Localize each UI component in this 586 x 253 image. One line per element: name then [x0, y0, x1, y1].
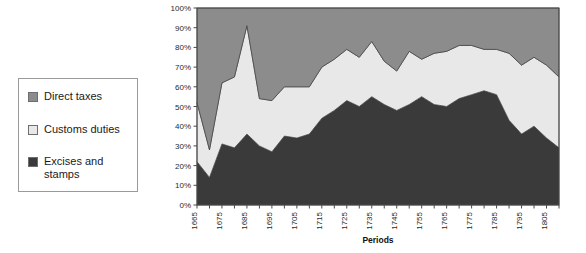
legend-label-customs-duties: Customs duties	[44, 123, 120, 136]
y-tick-label: 100%	[171, 4, 191, 13]
legend-swatch-excises-and-stamps	[28, 157, 38, 167]
y-tick-label: 0%	[179, 201, 191, 210]
legend-swatch-customs-duties	[28, 125, 38, 135]
x-tick-label: 1805	[540, 211, 549, 229]
y-tick-label: 90%	[175, 24, 191, 33]
x-axis: 1665167516851695170517151725173517451755…	[190, 205, 559, 230]
legend-item-excises-and-stamps: Excises and stamps	[28, 155, 103, 181]
x-tick-label: 1695	[265, 211, 274, 229]
x-tick-label: 1785	[490, 211, 499, 229]
x-tick-label: 1715	[315, 211, 324, 229]
x-tick-label: 1745	[390, 211, 399, 229]
chart-legend: Direct taxes Customs duties Excises and …	[18, 78, 138, 192]
legend-swatch-direct-taxes	[28, 92, 38, 102]
x-tick-label: 1685	[240, 211, 249, 229]
y-tick-label: 20%	[175, 162, 191, 171]
legend-item-direct-taxes: Direct taxes	[28, 90, 102, 103]
legend-item-customs-duties: Customs duties	[28, 123, 120, 136]
x-tick-label: 1675	[215, 211, 224, 229]
chart-svg: 0%10%20%30%40%50%60%70%80%90%100% 166516…	[160, 0, 586, 253]
legend-label-direct-taxes: Direct taxes	[44, 90, 102, 103]
x-tick-label: 1765	[440, 211, 449, 229]
x-tick-label: 1725	[340, 211, 349, 229]
y-tick-label: 50%	[175, 103, 191, 112]
x-axis-title: Periods	[362, 235, 393, 245]
y-tick-label: 30%	[175, 142, 191, 151]
legend-label-excises-and-stamps: Excises and stamps	[44, 155, 103, 181]
y-tick-label: 60%	[175, 83, 191, 92]
y-tick-label: 40%	[175, 122, 191, 131]
stacked-area-chart: 0%10%20%30%40%50%60%70%80%90%100% 166516…	[160, 0, 586, 253]
y-tick-label: 10%	[175, 181, 191, 190]
x-tick-label: 1735	[365, 211, 374, 229]
y-tick-label: 70%	[175, 63, 191, 72]
x-tick-label: 1665	[190, 211, 199, 229]
x-tick-label: 1775	[465, 211, 474, 229]
plot-bands	[197, 8, 559, 205]
x-tick-label: 1705	[290, 211, 299, 229]
y-axis: 0%10%20%30%40%50%60%70%80%90%100%	[171, 4, 197, 210]
x-tick-label: 1795	[515, 211, 524, 229]
y-tick-label: 80%	[175, 43, 191, 52]
x-tick-label: 1755	[415, 211, 424, 229]
